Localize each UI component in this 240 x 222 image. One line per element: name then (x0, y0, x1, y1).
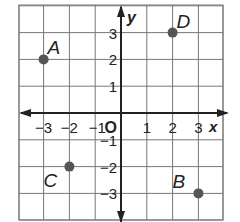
y-tick-label: 2 (109, 51, 117, 68)
y-tick-label: 1 (109, 78, 117, 95)
y-tick-label: −2 (100, 159, 117, 176)
point-b (193, 188, 203, 198)
y-tick-label: −1 (100, 132, 117, 149)
point-label-c: C (43, 170, 57, 191)
y-tick-label: 3 (109, 25, 117, 42)
x-tick-label: 1 (143, 119, 151, 136)
x-tick-label: 2 (168, 119, 176, 136)
x-tick-label: −2 (61, 119, 78, 136)
tick-labels: yxO−3−2−1123321−1−2−3 (35, 9, 218, 202)
point-label-b: B (172, 171, 185, 192)
y-axis-up-arrow-icon (117, 5, 125, 17)
point-c (64, 162, 74, 172)
point-label-a: A (47, 37, 61, 58)
x-tick-label: −3 (35, 119, 52, 136)
x-axis-label: x (208, 118, 218, 135)
coordinate-plane: yxO−3−2−1123321−1−2−3 ABCD (0, 0, 240, 222)
y-axis-label: y (126, 9, 137, 26)
y-tick-label: −3 (100, 185, 117, 202)
x-axis-left-arrow-icon (19, 109, 31, 117)
point-label-d: D (177, 11, 191, 32)
x-tick-label: 3 (194, 119, 202, 136)
